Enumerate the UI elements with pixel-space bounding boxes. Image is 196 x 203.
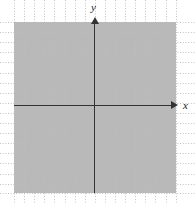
coordinate-plane: y x [0, 0, 196, 203]
y-axis-label: y [91, 2, 96, 13]
y-axis-arrow-icon [91, 17, 99, 24]
grid-background [14, 22, 176, 193]
x-axis-arrow-icon [171, 101, 178, 109]
x-axis-label: x [183, 100, 188, 111]
y-axis-line [94, 24, 95, 193]
